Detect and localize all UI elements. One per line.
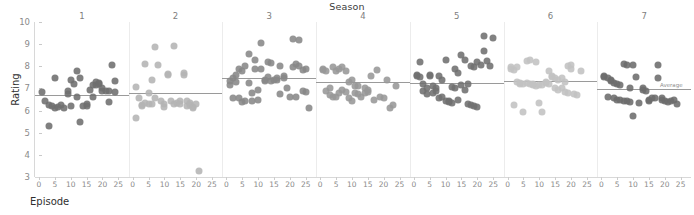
- data-point: [536, 99, 543, 106]
- x-tick-mark: [149, 177, 150, 180]
- data-point: [252, 56, 259, 63]
- x-tick-label: 5: [240, 180, 245, 189]
- data-point: [533, 58, 540, 65]
- x-tick-label: 20: [191, 180, 201, 189]
- x-tick-label: 20: [473, 180, 483, 189]
- x-tick-label: 10: [441, 180, 451, 189]
- facet-title-season-1: 1: [79, 11, 84, 21]
- data-point: [277, 63, 284, 70]
- x-tick-mark: [571, 177, 572, 180]
- data-point: [348, 97, 355, 104]
- data-point: [258, 65, 265, 72]
- facet-title-season-3: 3: [267, 11, 272, 21]
- data-point: [193, 100, 200, 107]
- data-point: [45, 123, 52, 130]
- data-point: [148, 76, 155, 83]
- x-tick-mark: [493, 177, 494, 180]
- x-tick-mark: [196, 177, 197, 180]
- data-point: [342, 67, 349, 74]
- data-point: [390, 102, 397, 109]
- x-tick-mark: [681, 177, 682, 180]
- data-point: [364, 86, 371, 93]
- x-tick-mark: [601, 177, 602, 180]
- y-tick-label: 8: [8, 61, 30, 71]
- data-point: [109, 62, 116, 69]
- data-point: [433, 87, 440, 94]
- x-tick-label: 0: [224, 180, 229, 189]
- data-point: [293, 94, 300, 101]
- x-tick-mark: [242, 177, 243, 180]
- facet-separator: [504, 22, 505, 177]
- data-point: [477, 62, 484, 69]
- x-tick-mark: [368, 177, 369, 180]
- x-tick-label: 0: [505, 180, 510, 189]
- y-tick-mark: [39, 66, 42, 67]
- y-tick-label: 9: [8, 39, 30, 49]
- x-tick-label: 0: [411, 180, 416, 189]
- x-tick-label: 0: [37, 180, 42, 189]
- data-point: [277, 90, 284, 97]
- data-point: [280, 75, 287, 82]
- data-point: [367, 73, 374, 80]
- facet-title-season-4: 4: [360, 11, 365, 21]
- data-point: [74, 94, 81, 101]
- x-tick-label: 10: [628, 180, 638, 189]
- facet-separator: [222, 22, 223, 177]
- facet-title-season-7: 7: [641, 11, 646, 21]
- x-tick-mark: [336, 177, 337, 180]
- data-point: [155, 62, 162, 69]
- x-axis-label: Episode: [30, 196, 69, 207]
- y-tick-label: 4: [8, 150, 30, 160]
- y-tick-mark: [39, 133, 42, 134]
- data-point: [455, 96, 462, 103]
- data-point: [455, 69, 462, 76]
- data-point: [51, 75, 58, 82]
- data-point: [490, 34, 497, 41]
- x-tick-label: 25: [582, 180, 592, 189]
- data-point: [464, 81, 471, 88]
- data-point: [480, 47, 487, 54]
- x-tick-mark: [290, 177, 291, 180]
- data-point: [439, 76, 446, 83]
- data-point: [568, 65, 575, 72]
- x-tick-label: 25: [488, 180, 498, 189]
- data-point: [196, 168, 203, 175]
- x-tick-mark: [118, 177, 119, 180]
- y-axis-line: [34, 22, 35, 177]
- data-point: [161, 104, 168, 111]
- x-tick-mark: [258, 177, 259, 180]
- data-point: [302, 65, 309, 72]
- data-point: [426, 73, 433, 80]
- data-point: [626, 85, 633, 92]
- data-point: [245, 79, 252, 86]
- scatter-chart: Season Rating 345678910 1234567Average 0…: [0, 0, 694, 215]
- data-point: [77, 75, 84, 82]
- data-point: [474, 104, 481, 111]
- data-point: [296, 36, 303, 43]
- x-tick-mark: [212, 177, 213, 180]
- x-tick-mark: [665, 177, 666, 180]
- x-tick-mark: [539, 177, 540, 180]
- x-tick-label: 15: [176, 180, 186, 189]
- data-point: [487, 63, 494, 70]
- x-tick-mark: [400, 177, 401, 180]
- data-point: [283, 85, 290, 92]
- data-point: [132, 84, 139, 91]
- x-tick-mark: [430, 177, 431, 180]
- x-tick-label: 25: [676, 180, 686, 189]
- data-point: [636, 99, 643, 106]
- data-point: [514, 64, 521, 71]
- x-tick-mark: [384, 177, 385, 180]
- y-tick-label: 10: [8, 17, 30, 27]
- average-line-season-2: [129, 93, 223, 94]
- x-tick-label: 5: [52, 180, 57, 189]
- data-point: [302, 88, 309, 95]
- data-point: [442, 56, 449, 63]
- x-tick-label: 25: [207, 180, 217, 189]
- x-tick-label: 20: [379, 180, 389, 189]
- data-point: [393, 83, 400, 90]
- x-tick-mark: [587, 177, 588, 180]
- data-point: [520, 108, 527, 115]
- x-tick-label: 15: [457, 180, 467, 189]
- x-tick-mark: [461, 177, 462, 180]
